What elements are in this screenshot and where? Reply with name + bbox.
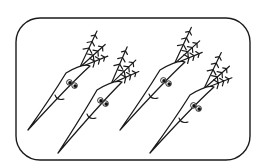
carrot-eyes-icon bbox=[191, 103, 202, 112]
carrot-1 bbox=[28, 31, 108, 130]
carrot-group bbox=[28, 27, 232, 153]
carrot-leaves-icon bbox=[174, 27, 202, 63]
carrot-leaves-icon bbox=[111, 47, 139, 84]
carrot-leaves-icon bbox=[80, 31, 108, 67]
carrot-body bbox=[150, 86, 214, 153]
carrot-3 bbox=[120, 27, 202, 130]
carrots-illustration bbox=[0, 0, 263, 167]
carrot-body bbox=[58, 81, 122, 153]
carrot-4 bbox=[150, 53, 232, 153]
carrot-leaves-icon bbox=[204, 53, 232, 89]
rounded-frame bbox=[16, 18, 250, 160]
